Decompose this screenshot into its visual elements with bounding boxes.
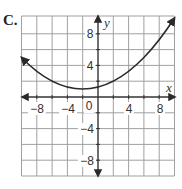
tick-labels: −8 −4 0 4 8 8 4 −4 −8 y x [28,15,172,168]
x-tick-label: 4 [126,102,133,116]
y-tick-label: 4 [87,59,94,73]
y-tick-label: −8 [80,154,94,168]
x-tick-label: −4 [61,102,75,116]
origin-label: 0 [86,99,93,113]
x-tick-label: −8 [30,102,44,116]
x-axis-label: x [165,80,172,95]
axes [22,16,175,176]
y-tick-label: 8 [87,27,94,41]
x-tick-label: 8 [157,102,164,116]
y-tick-label: −4 [80,122,94,136]
y-axis-label: y [102,15,110,30]
graph: −8 −4 0 4 8 8 4 −4 −8 y x [0,0,182,189]
